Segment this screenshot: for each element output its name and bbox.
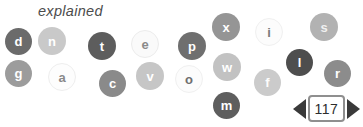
letter-bubble-i[interactable]: i: [255, 18, 283, 46]
letter-bubble-r[interactable]: r: [324, 60, 351, 87]
letter-bubble-f[interactable]: f: [254, 69, 281, 96]
letter-bubble-c[interactable]: c: [99, 70, 126, 97]
letter-scatter-panel: explained dntepxisgacvowflrm 117: [0, 0, 363, 127]
letter-bubble-n[interactable]: n: [38, 27, 66, 55]
page-number: 117: [315, 101, 339, 117]
letter-bubble-v[interactable]: v: [136, 62, 164, 90]
letter-bubble-l[interactable]: l: [286, 49, 313, 76]
letter-bubble-w[interactable]: w: [213, 53, 241, 81]
letter-bubble-x[interactable]: x: [212, 13, 240, 41]
letter-bubble-a[interactable]: a: [48, 63, 76, 91]
letter-bubble-s[interactable]: s: [310, 13, 338, 41]
pager: 117: [293, 95, 360, 122]
letter-bubble-o[interactable]: o: [175, 65, 203, 93]
page-number-box[interactable]: 117: [308, 95, 345, 122]
letter-bubble-t[interactable]: t: [88, 32, 116, 60]
prev-page-button triangle-left-icon[interactable]: [293, 99, 306, 119]
letter-bubble-g[interactable]: g: [5, 60, 32, 87]
letter-bubble-p[interactable]: p: [178, 32, 206, 60]
next-page-button triangle-right-icon[interactable]: [347, 99, 360, 119]
letter-bubble-e[interactable]: e: [131, 30, 159, 58]
letter-bubble-m[interactable]: m: [213, 92, 240, 119]
letter-bubble-d[interactable]: d: [5, 28, 32, 55]
